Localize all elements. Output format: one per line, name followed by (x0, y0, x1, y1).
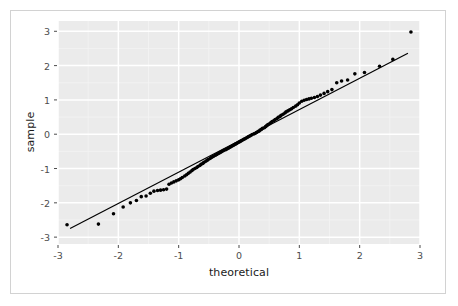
y-tick-label: -3 (32, 232, 50, 243)
data-point (319, 93, 323, 97)
data-point (121, 205, 125, 209)
plot-canvas (0, 0, 458, 306)
y-tick-label: -1 (32, 163, 50, 174)
x-tick-label: 0 (236, 250, 242, 261)
data-point (340, 79, 344, 83)
x-tick-label: 2 (357, 250, 363, 261)
data-point (363, 71, 367, 75)
data-point (162, 188, 166, 192)
y-tick-label: 0 (32, 129, 50, 140)
x-tick-label: -2 (114, 250, 123, 261)
qq-plot-figure: theoretical sample -3-2-10123-3-2-10123 (0, 0, 458, 306)
x-tick-label: 1 (296, 250, 302, 261)
data-point (65, 223, 69, 227)
data-point (335, 81, 339, 85)
data-point (165, 187, 169, 191)
data-point (139, 195, 143, 199)
x-tick-label: 3 (417, 250, 423, 261)
data-point (310, 96, 314, 100)
data-point (378, 64, 382, 68)
x-tick-label: -1 (174, 250, 183, 261)
data-point (346, 78, 350, 82)
data-point (353, 72, 357, 76)
data-point (152, 189, 156, 193)
y-tick-label: 3 (32, 26, 50, 37)
data-point (135, 199, 139, 203)
y-tick-label: 2 (32, 60, 50, 71)
data-point (97, 222, 101, 226)
data-point (391, 58, 395, 62)
y-tick-label: -2 (32, 197, 50, 208)
data-point (330, 88, 334, 92)
data-point (112, 212, 116, 216)
data-point (409, 30, 413, 34)
y-tick-label: 1 (32, 94, 50, 105)
x-axis-title: theoretical (58, 266, 420, 279)
data-point (129, 201, 133, 205)
data-point (144, 194, 148, 198)
data-point (149, 191, 153, 195)
data-point (326, 90, 330, 94)
x-tick-label: -3 (53, 250, 62, 261)
data-point (322, 92, 326, 96)
